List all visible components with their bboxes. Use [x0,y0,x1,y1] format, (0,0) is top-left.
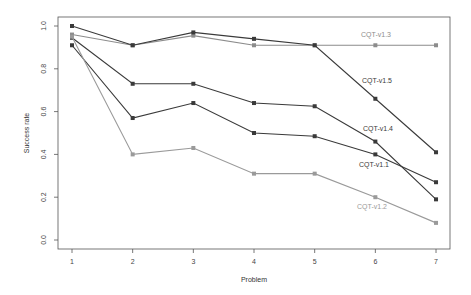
data-point-marker [373,152,377,156]
data-point-marker [70,43,74,47]
series-label: CQT-v1.1 [359,161,389,169]
series-cqt-v1-1: CQT-v1.1 [70,43,438,184]
series-label: CQT-v1.2 [357,203,387,211]
data-point-marker [434,197,438,201]
y-axis-title: Success rate [23,113,30,154]
y-tick-label: 0.0 [40,235,47,245]
data-point-marker [373,43,377,47]
data-point-marker [70,24,74,28]
y-axis: 0.00.20.40.60.81.0 [40,21,58,245]
y-tick-label: 0.2 [40,192,47,202]
series-cqt-v1-4: CQT-v1.4 [70,36,438,202]
data-point-marker [191,146,195,150]
y-tick-label: 0.8 [40,64,47,74]
x-tick-label: 4 [252,258,256,265]
data-point-marker [191,30,195,34]
data-point-marker [131,116,135,120]
data-point-marker [131,43,135,47]
data-point-marker [373,195,377,199]
x-tick-label: 3 [191,258,195,265]
x-tick-label: 5 [313,258,317,265]
series-layer: CQT-v1.3CQT-v1.5CQT-v1.4CQT-v1.1CQT-v1.2 [70,24,438,225]
data-point-marker [313,43,317,47]
data-point-marker [191,82,195,86]
data-point-marker [434,150,438,154]
data-point-marker [252,43,256,47]
x-axis-title: Problem [241,276,267,283]
y-tick-label: 1.0 [40,21,47,31]
data-point-marker [191,101,195,105]
data-point-marker [434,180,438,184]
data-point-marker [313,104,317,108]
series-label: CQT-v1.4 [363,125,393,133]
series-label: CQT-v1.5 [362,77,392,85]
data-point-marker [252,172,256,176]
data-point-marker [434,221,438,225]
x-tick-label: 2 [131,258,135,265]
x-tick-label: 7 [434,258,438,265]
line-chart: 1234567 0.00.20.40.60.81.0 CQT-v1.3CQT-v… [0,0,471,295]
data-point-marker [252,37,256,41]
series-label: CQT-v1.3 [361,31,391,39]
x-tick-label: 6 [373,258,377,265]
data-point-marker [373,97,377,101]
data-point-marker [131,82,135,86]
data-point-marker [313,134,317,138]
data-point-marker [70,35,74,39]
y-tick-label: 0.6 [40,107,47,117]
data-point-marker [434,43,438,47]
data-point-marker [131,152,135,156]
x-tick-label: 1 [70,258,74,265]
data-point-marker [252,131,256,135]
data-point-marker [313,172,317,176]
y-tick-label: 0.4 [40,149,47,159]
data-point-marker [373,140,377,144]
x-axis: 1234567 [70,249,438,265]
data-point-marker [252,101,256,105]
